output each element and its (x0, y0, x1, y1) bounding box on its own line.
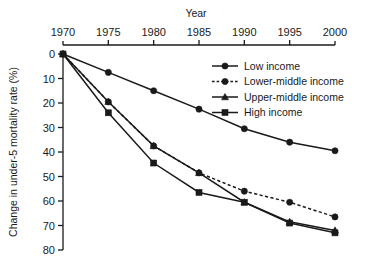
chart-container: Year197019751980198519901995200001020304… (0, 0, 375, 275)
y-tick-label: 40 (43, 146, 55, 158)
y-tick-label: 70 (43, 220, 55, 232)
y-tick-label: 60 (43, 195, 55, 207)
data-point-square (60, 51, 66, 57)
y-tick-label: 30 (43, 122, 55, 134)
x-tick-label: 2000 (323, 26, 347, 38)
legend-item[interactable]: High income (212, 106, 303, 118)
legend-item-label: Upper-middle income (244, 91, 344, 103)
legend-item[interactable]: Lower-middle income (212, 75, 344, 87)
data-point-circle (241, 188, 247, 194)
legend-item-label: High income (244, 106, 303, 118)
data-point-circle (332, 214, 338, 220)
data-point-square (287, 220, 293, 226)
legend-item-label: Lower-middle income (244, 75, 344, 87)
data-point-circle (241, 126, 247, 132)
data-point-square (332, 230, 338, 236)
data-point-circle (105, 69, 111, 75)
data-point-circle (287, 139, 293, 145)
legend-item[interactable]: Upper-middle income (212, 91, 344, 103)
data-point-circle (151, 88, 157, 94)
legend-item[interactable]: Low income (212, 60, 300, 72)
data-point-square (151, 160, 157, 166)
y-axis-title: Change in under-5 mortality rate (%) (7, 67, 19, 237)
y-tick-label: 50 (43, 171, 55, 183)
data-point-circle (222, 78, 228, 84)
x-tick-label: 1970 (51, 26, 75, 38)
legend-item-label: Low income (244, 60, 300, 72)
data-point-square (196, 189, 202, 195)
data-point-circle (222, 63, 228, 69)
data-point-circle (196, 106, 202, 112)
chart-legend: Low incomeLower-middle incomeUpper-middl… (212, 60, 344, 119)
y-tick-label: 0 (49, 48, 55, 60)
data-point-circle (332, 148, 338, 154)
data-point-square (241, 199, 247, 205)
y-tick-label: 10 (43, 73, 55, 85)
x-tick-label: 1975 (96, 26, 120, 38)
y-tick-label: 80 (43, 244, 55, 256)
mortality-rate-line-chart: Year197019751980198519901995200001020304… (0, 0, 375, 275)
x-tick-label: 1980 (141, 26, 165, 38)
y-tick-label: 20 (43, 97, 55, 109)
data-point-square (222, 110, 228, 116)
data-point-square (105, 110, 111, 116)
chart-title: Year (185, 7, 207, 19)
x-tick-label: 1995 (277, 26, 301, 38)
x-tick-label: 1990 (232, 26, 256, 38)
data-point-circle (287, 199, 293, 205)
x-tick-label: 1985 (187, 26, 211, 38)
